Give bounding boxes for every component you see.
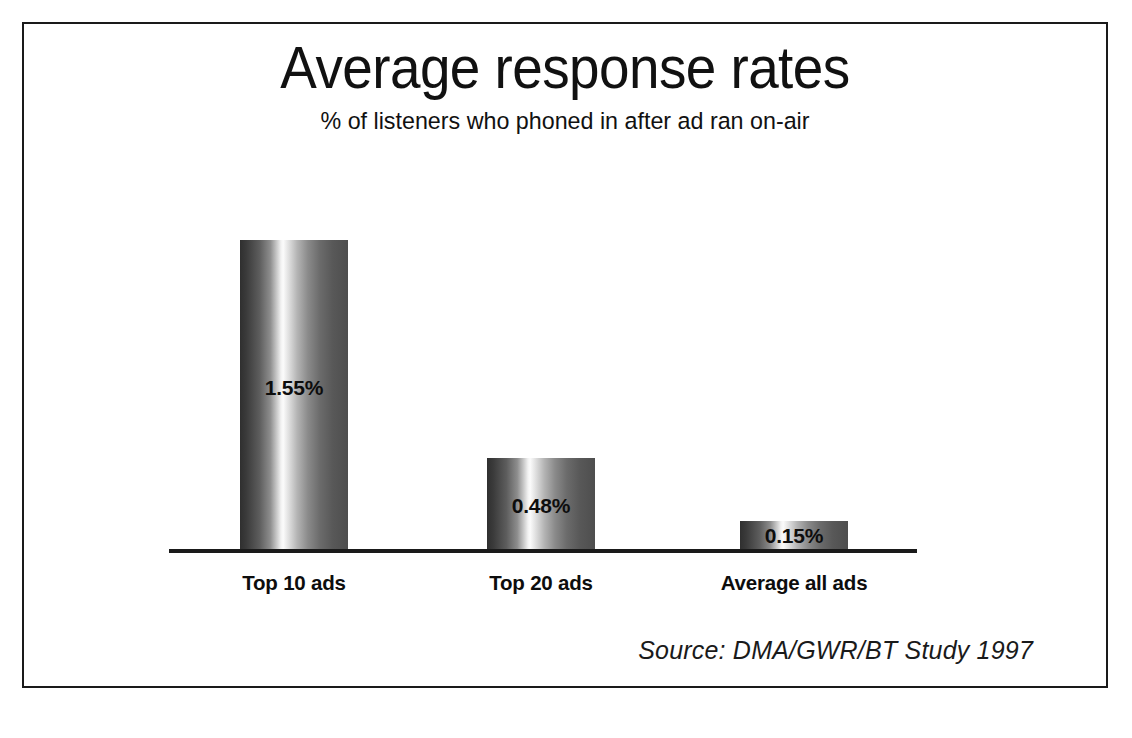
chart-frame: Average response rates % of listeners wh… (22, 22, 1108, 688)
bar-top-10-ads: 1.55% (240, 240, 348, 549)
source-note: Source: DMA/GWR/BT Study 1997 (638, 636, 1033, 665)
category-label-top-10-ads: Top 10 ads (189, 571, 399, 595)
plot-area: 1.55% 0.48% 0.15% Top 10 ads Top 20 ads … (169, 24, 919, 690)
bar-top-20-ads: 0.48% (487, 458, 595, 549)
category-label-top-20-ads: Top 20 ads (436, 571, 646, 595)
bar-value-label: 0.15% (740, 524, 848, 548)
bar-value-label: 1.55% (240, 376, 348, 400)
bar-average-all-ads: 0.15% (740, 521, 848, 549)
bar-value-label: 0.48% (487, 494, 595, 518)
x-axis-baseline (169, 549, 917, 553)
category-label-average-all-ads: Average all ads (689, 571, 899, 595)
